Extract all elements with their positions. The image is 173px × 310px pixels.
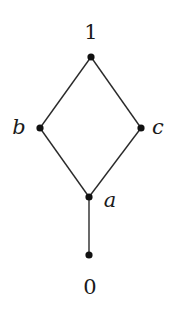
label-b: b <box>12 117 25 138</box>
node-0 <box>85 251 92 258</box>
hasse-diagram <box>0 0 173 310</box>
edge-1-c <box>91 57 141 128</box>
label-0: 0 <box>83 277 96 298</box>
node-c <box>137 124 144 131</box>
label-1: 1 <box>84 22 97 43</box>
node-1 <box>87 53 94 60</box>
edge-b-a <box>40 128 89 197</box>
nodes <box>36 53 144 258</box>
node-a <box>85 193 92 200</box>
node-b <box>36 124 43 131</box>
edge-1-b <box>40 57 91 128</box>
label-c: c <box>152 117 164 138</box>
edges <box>40 57 141 255</box>
label-a: a <box>104 190 117 211</box>
